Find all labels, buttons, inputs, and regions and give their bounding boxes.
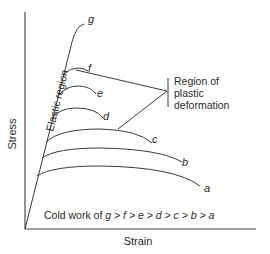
plastic-region-line-3: deformation (174, 99, 230, 111)
plastic-region-line-1: Region of (174, 75, 219, 87)
plastic-region-line-2: plastic (174, 87, 204, 99)
stress-strain-diagram: g f e d c b a Elastic region Region of p… (0, 0, 270, 254)
x-axis-title: Strain (124, 235, 153, 247)
cold-work-prefix: Cold work of (44, 209, 105, 221)
cold-work-order: g > f > e > d > c > b > a (105, 209, 214, 221)
label-b: b (182, 156, 188, 168)
label-g: g (88, 13, 95, 25)
label-d: d (103, 110, 110, 122)
curve-b (42, 148, 182, 162)
label-c: c (152, 133, 158, 145)
label-a: a (204, 182, 210, 194)
label-e: e (97, 87, 103, 99)
curve-c (46, 129, 152, 143)
cold-work-caption: Cold work of g > f > e > d > c > b > a (44, 209, 215, 221)
plastic-pointer-lower (118, 91, 167, 129)
y-axis-title: Stress (6, 118, 18, 150)
curve-a (37, 166, 200, 186)
label-f: f (88, 62, 92, 74)
elastic-region-label: Elastic region (43, 68, 70, 132)
